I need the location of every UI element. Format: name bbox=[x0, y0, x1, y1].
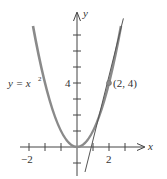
y-axis bbox=[73, 12, 81, 176]
y-axis-label: y bbox=[82, 7, 88, 19]
y-tick-label-4: 4 bbox=[65, 77, 71, 89]
curve-label: y = x bbox=[7, 77, 31, 89]
tangent-line bbox=[85, 18, 123, 172]
x-tick-label-neg2: −2 bbox=[21, 153, 33, 165]
tangent-point-marker bbox=[107, 81, 112, 86]
x-axis-label: x bbox=[147, 140, 153, 152]
curve-label-exponent: 2 bbox=[38, 75, 42, 83]
parabola-tangent-diagram: −2 2 4 x y (2, 4) y = x 2 bbox=[0, 0, 167, 179]
x-tick-label-2: 2 bbox=[106, 153, 112, 165]
point-label: (2, 4) bbox=[113, 77, 137, 90]
